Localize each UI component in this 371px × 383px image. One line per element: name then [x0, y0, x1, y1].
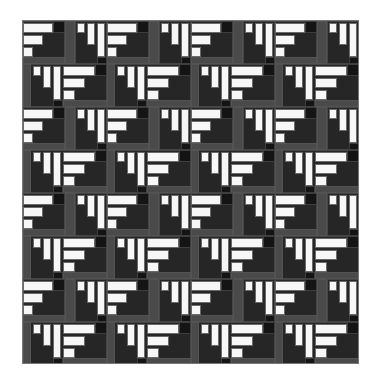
quilt-patch [191, 47, 201, 57]
quilt-patch [23, 47, 33, 57]
quilt-patch [33, 238, 41, 248]
quilt-patch [201, 324, 209, 334]
quilt-patch [137, 66, 145, 100]
quilt-patch [295, 238, 303, 260]
quilt-patch [65, 21, 75, 64]
quilt-patch [53, 100, 63, 107]
quilt-patch [107, 47, 117, 57]
quilt-patch [127, 66, 135, 88]
quilt-patch [23, 236, 31, 279]
quilt-patch [137, 152, 145, 186]
quilt-patch [137, 21, 149, 33]
quilt-patch [77, 195, 85, 205]
quilt-patch [107, 121, 127, 131]
quilt-patch [275, 207, 295, 217]
quilt-patch [265, 143, 275, 150]
quilt-patch [305, 100, 315, 107]
quilt-patch [255, 195, 263, 217]
quilt-patch [191, 305, 201, 315]
quilt-patch [231, 186, 275, 193]
quilt-patch [137, 100, 147, 107]
quilt-patch [231, 324, 263, 334]
quilt-patch [265, 229, 275, 236]
quilt-patch [315, 78, 337, 88]
quilt-patch [147, 238, 179, 248]
quilt-patch [179, 322, 191, 334]
quilt-patch [221, 238, 229, 272]
quilt-patch [285, 324, 293, 334]
quilt-patch [285, 152, 293, 162]
quilt-patch [315, 164, 337, 174]
quilt-patch [347, 236, 359, 248]
quilt-patch [315, 272, 359, 279]
quilt-patch [23, 322, 31, 364]
quilt-patch [95, 236, 107, 248]
quilt-patch [347, 64, 359, 76]
quilt-patch [97, 195, 105, 229]
quilt-patch [23, 305, 33, 315]
quilt-patch [339, 281, 347, 303]
quilt-patch [245, 281, 253, 291]
quilt-patch [97, 315, 107, 322]
quilt-patch [263, 236, 275, 248]
quilt-patch [147, 348, 159, 358]
quilt-patch [275, 195, 305, 205]
quilt-patch [211, 152, 219, 174]
quilt-patch [275, 109, 305, 119]
quilt-patch [147, 176, 159, 186]
quilt-patch [191, 35, 211, 45]
quilt-patch [339, 109, 347, 131]
quilt-patch [181, 57, 191, 64]
quilt-patch [255, 109, 263, 131]
quilt-patch [107, 305, 117, 315]
quilt-patch [245, 109, 253, 119]
quilt-patch [149, 107, 159, 150]
quilt-patch [107, 195, 137, 205]
quilt-patch [23, 133, 33, 143]
quilt-patch [275, 57, 317, 64]
quilt-patch [149, 193, 159, 236]
quilt-patch [63, 152, 95, 162]
quilt-patch [147, 164, 169, 174]
quilt-patch [63, 262, 75, 272]
quilt-patch [231, 164, 253, 174]
quilt-patch [349, 229, 359, 236]
quilt-patch [191, 322, 199, 364]
quilt-patch [63, 66, 95, 76]
quilt-patch [191, 219, 201, 229]
quilt-patch [53, 193, 65, 205]
quilt-patch [315, 238, 347, 248]
quilt-patch [191, 109, 221, 119]
quilt-patch [171, 23, 179, 45]
quilt-patch [53, 238, 61, 272]
quilt-patch [265, 109, 273, 143]
quilt-patch [295, 152, 303, 174]
quilt-patch [107, 315, 149, 322]
quilt-patch [315, 90, 327, 100]
quilt-patch [275, 219, 285, 229]
quilt-patch [147, 66, 179, 76]
quilt-patch [23, 23, 53, 33]
quilt-patch [255, 23, 263, 45]
quilt-patch [43, 238, 51, 260]
quilt-patch [107, 133, 117, 143]
quilt-patch [147, 152, 179, 162]
quilt-patch [107, 109, 137, 119]
quilt-patch [201, 66, 209, 76]
quilt-patch [231, 358, 275, 364]
quilt-patch [97, 143, 107, 150]
quilt-patch [349, 57, 359, 64]
quilt-patch [63, 78, 85, 88]
quilt-patch [275, 229, 317, 236]
quilt-patch [107, 207, 127, 217]
quilt-patch [107, 293, 127, 303]
quilt-patch [315, 262, 327, 272]
quilt-patch [245, 23, 253, 33]
quilt-patch [53, 279, 65, 291]
quilt-patch [305, 238, 313, 272]
quilt-patch [63, 358, 107, 364]
quilt-patch [265, 281, 273, 315]
quilt-patch [97, 281, 105, 315]
quilt-patch [231, 90, 243, 100]
quilt-patch [77, 23, 85, 33]
